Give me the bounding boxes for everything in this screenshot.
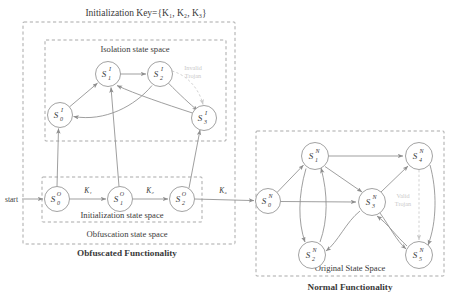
node-group-obfuscation: S 0 O S 1 O S 2 O [45, 187, 195, 212]
node-s4n-circle[interactable] [406, 143, 433, 170]
node-s5n[interactable]: S 5 N [406, 242, 433, 269]
edge-s0n-s1n [277, 165, 304, 193]
node-s0o[interactable]: S 0 O [45, 187, 70, 212]
invalid-trojan-label-line1: Invalid [184, 64, 202, 71]
invalid-trojan-label-line2: Trojan [185, 72, 201, 79]
isolation-state-space-label: Isolation state space [100, 44, 169, 54]
state-machine-diagram: Initialization Key={K₁, K₂, K₃} Isolatio… [0, 0, 453, 305]
edge-s3n-s2n [326, 211, 360, 251]
node-s3n-subscript: 3 [371, 203, 375, 209]
node-s2o-superscript: O [182, 191, 187, 197]
edge-s2o-s0n [195, 199, 255, 201]
node-s1i-base: S [102, 69, 107, 79]
node-s1n-subscript: 1 [315, 157, 318, 163]
node-s1i-circle[interactable] [96, 62, 121, 87]
node-s3n[interactable]: S 3 N [359, 189, 386, 216]
node-s3n-base: S [366, 197, 371, 207]
edge-s0n-s3n [281, 202, 357, 203]
node-s2o[interactable]: S 2 O [170, 187, 195, 212]
node-s2o-subscript: 2 [182, 200, 185, 206]
node-s1o[interactable]: S 1 O [108, 187, 133, 212]
node-s2o-base: S [176, 194, 181, 204]
node-s2n-base: S [306, 250, 311, 260]
node-s1o-superscript: O [120, 191, 125, 197]
edge-s2n-s1n [320, 168, 326, 242]
start-label: start [5, 195, 19, 204]
node-s3i-circle[interactable] [192, 106, 217, 131]
node-s0i-circle[interactable] [48, 103, 73, 128]
node-s2i-base: S [154, 69, 159, 79]
node-s1n[interactable]: S 1 N [302, 143, 329, 170]
node-s1n-base: S [309, 151, 314, 161]
obfuscation-state-space-label: Obfuscation state space [86, 229, 167, 239]
node-s0i[interactable]: S 0 I [48, 103, 73, 128]
node-s0i-subscript: 0 [60, 116, 63, 122]
obfuscated-functionality-caption: Obfuscated Functionality [77, 248, 177, 258]
node-s0n-base: S [262, 196, 267, 206]
node-s4n-base: S [413, 151, 418, 161]
edge-s0o-s0i [57, 129, 59, 187]
key-k2-label: K₂ [145, 186, 154, 195]
node-s2n-circle[interactable] [299, 242, 326, 269]
node-s5n-base: S [413, 250, 418, 260]
node-s0o-subscript: 0 [57, 200, 60, 206]
node-s1i[interactable]: S 1 I [96, 62, 121, 87]
node-s2i[interactable]: S 2 I [148, 62, 173, 87]
node-s3i[interactable]: S 3 I [192, 106, 217, 131]
node-s0n[interactable]: S 0 N [256, 189, 281, 214]
node-s5n-circle[interactable] [406, 242, 433, 269]
node-s0o-superscript: O [57, 191, 62, 197]
edge-s2o-s3i [189, 130, 200, 188]
node-s2n-subscript: 2 [312, 256, 315, 262]
node-s4n[interactable]: S 4 N [406, 143, 433, 170]
node-s1o-base: S [114, 194, 119, 204]
edge-s3n-s4n [381, 166, 408, 192]
edge-s4n-s5n [428, 165, 435, 245]
node-s2i-subscript: 2 [160, 75, 163, 81]
original-state-space-label: Original State Space [315, 263, 386, 273]
node-s2n[interactable]: S 2 N [299, 242, 326, 269]
node-s1i-subscript: 1 [108, 75, 111, 81]
node-s5n-subscript: 5 [419, 256, 422, 262]
node-s2i-circle[interactable] [148, 62, 173, 87]
node-s3i-base: S [198, 113, 203, 123]
figure-canvas: Initialization Key={K₁, K₂, K₃} Isolatio… [0, 0, 453, 305]
figure-title: Initialization Key={K₁, K₂, K₃} [85, 8, 206, 18]
node-s0n-subscript: 0 [268, 202, 271, 208]
normal-functionality-caption: Normal Functionality [308, 282, 393, 292]
node-s3i-subscript: 3 [203, 119, 207, 125]
key-k1-label: K₁ [83, 186, 92, 195]
key-k3-label: K₃ [218, 186, 227, 195]
node-s0i-base: S [54, 110, 59, 120]
node-s0o-base: S [51, 194, 56, 204]
valid-trojan-label-line2: Trojan [395, 200, 411, 207]
node-s1n-circle[interactable] [302, 143, 329, 170]
valid-trojan-label-line1: Valid [396, 192, 410, 199]
edge-s1n-s3n [325, 167, 362, 193]
node-s1o-subscript: 1 [120, 200, 123, 206]
edge-s1o-s1i [111, 88, 119, 187]
node-s4n-subscript: 4 [419, 157, 422, 163]
edge-s3i-s1i [117, 86, 193, 114]
edge-s1n-s2n [300, 169, 306, 243]
node-s3n-circle[interactable] [359, 189, 386, 216]
edge-s0i-s1i [70, 83, 98, 107]
